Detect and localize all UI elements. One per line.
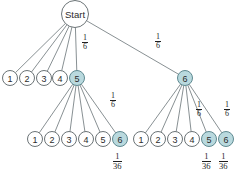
outcome-probability-prob-6-6: 136 [219,152,228,171]
node-l2-left-3-label: 3 [66,135,71,145]
outcome-probability-prob-5-6: 136 [113,152,122,171]
edge-probability-six-to-six-denominator: 6 [224,110,230,118]
outcome-probability-prob-5-6-denominator: 36 [113,162,122,171]
node-l2-right-2: 2 [151,132,166,147]
node-l2-left-4-label: 4 [83,135,88,145]
node-l2-left-6: 6 [113,132,128,147]
edge-start-to-1-0 [15,23,65,72]
edge-probability-six-to-six: 16 [224,101,230,119]
node-l2-right-4-label: 4 [189,135,194,145]
node-l2-left-1: 1 [28,132,43,147]
edge-probability-root-to-6: 16 [155,33,161,51]
node-l1-6: 6 [178,71,193,86]
node-l2-left-2: 2 [45,132,60,147]
node-l1-2: 2 [20,71,35,86]
edge-probability-six-to-five-denominator: 6 [196,110,202,118]
edge-probability-five-to-six: 16 [110,92,116,110]
node-l2-right-5-label: 5 [206,135,211,145]
node-l2-left-1-label: 1 [32,135,37,145]
edge-probability-six-to-five: 16 [196,101,202,119]
node-l1-2-label: 2 [24,74,29,84]
outcome-probability-prob-6-5: 136 [202,152,211,171]
edge-6-to-3-2 [176,85,184,131]
node-l2-right-3-label: 3 [172,135,177,145]
edge-probability-root-to-5: 16 [82,34,88,52]
node-l1-4-label: 4 [57,74,62,84]
node-l2-left-6-label: 6 [117,135,122,145]
edge-start-to-6-5 [87,21,179,74]
edge-probability-root-to-5-denominator: 6 [82,43,88,51]
node-l1-5: 5 [70,71,85,86]
node-l2-right-6-label: 6 [223,135,228,145]
node-l2-left-4: 4 [79,132,94,147]
edge-5-to-5-4 [80,85,100,132]
node-l2-right-1-label: 1 [138,135,143,145]
edge-5-to-4-3 [78,85,85,131]
edge-5-to-1-0 [39,84,73,133]
outcome-probability-prob-6-5-denominator: 36 [202,162,211,171]
edge-6-to-6-5 [189,84,222,133]
probability-tree-diagram: Start123456123456123456 1616161616136136… [0,0,243,179]
node-l2-right-5: 5 [202,132,217,147]
edge-6-to-2-1 [161,85,182,132]
nodes-layer: Start123456123456123456 [3,1,234,147]
node-l2-left-5: 5 [96,132,111,147]
node-l1-1-label: 1 [7,74,12,84]
node-start: Start [62,1,89,28]
edge-6-to-1-0 [145,84,180,133]
node-l2-left-2-label: 2 [49,135,54,145]
edge-probability-five-to-six-denominator: 6 [110,101,116,109]
node-l1-1: 1 [3,71,18,86]
node-l2-right-6: 6 [219,132,234,147]
outcome-probability-prob-6-6-denominator: 36 [219,162,228,171]
edge-start-to-2-1 [32,25,67,72]
node-l2-left-5-label: 5 [100,135,105,145]
node-l2-left-3: 3 [62,132,77,147]
node-l1-5-label: 5 [74,74,79,84]
edge-start-to-5-4 [75,27,76,70]
node-l1-3: 3 [37,71,52,86]
node-l2-right-4: 4 [185,132,200,147]
node-l1-6-label: 6 [182,74,187,84]
node-l1-3-label: 3 [41,74,46,84]
node-l2-right-1: 1 [134,132,149,147]
edge-start-to-3-2 [47,26,69,71]
edge-start-to-4-3 [62,27,72,71]
edge-probability-root-to-6-denominator: 6 [155,42,161,50]
node-l1-4: 4 [53,71,68,86]
node-l2-right-2-label: 2 [155,135,160,145]
node-start-label: Start [65,9,85,20]
node-l2-right-3: 3 [168,132,183,147]
